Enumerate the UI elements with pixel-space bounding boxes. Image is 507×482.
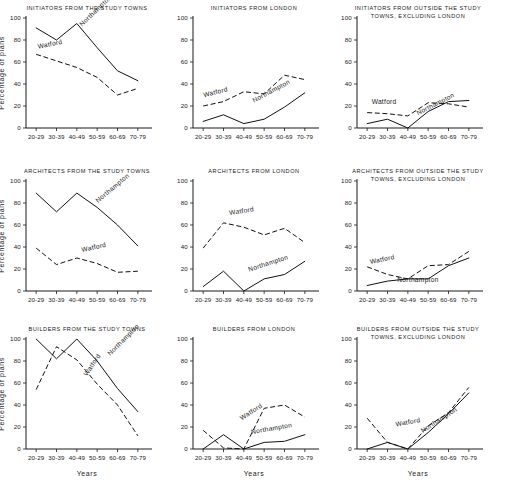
y-tick-label: 80	[14, 199, 22, 206]
x-tick-label: 70-79	[461, 296, 478, 303]
x-tick-label: 50-59	[420, 133, 437, 140]
svg-text:INITIATORS FROM THE STUDY TOWN: INITIATORS FROM THE STUDY TOWNS	[26, 5, 147, 11]
x-tick-label: 50-59	[256, 296, 273, 303]
x-tick-label: 30-39	[215, 296, 232, 303]
y-tick-label: 40	[181, 401, 189, 408]
panel-title-5: ARCHITECTS FROM OUTSIDE THE STUDYTOWNS, …	[352, 168, 483, 182]
x-tick-label: 40-49	[400, 133, 417, 140]
x-tick-label: 30-39	[48, 454, 65, 461]
x-tick-label: 20-29	[195, 133, 212, 140]
x-tick-label: 20-29	[28, 454, 45, 461]
chart-panel-8: BUILDERS FROM OUTSIDE THE STUDYTOWNS, EX…	[0, 0, 507, 482]
x-tick-label: 50-59	[420, 296, 437, 303]
y-tick-label: 20	[181, 265, 189, 272]
series-label-watford: Watford	[82, 352, 102, 377]
x-axis-label: Years	[244, 470, 265, 477]
svg-text:ARCHITECTS FROM LONDON: ARCHITECTS FROM LONDON	[208, 168, 299, 174]
series-line-watford	[203, 405, 305, 449]
y-tick-label: 100	[177, 177, 188, 184]
series-label-northampton: Northampton	[247, 253, 289, 273]
y-tick-label: 60	[345, 221, 353, 228]
chart-panel-0: INITIATORS FROM THE STUDY TOWNS020406080…	[0, 0, 507, 482]
panel-title-7: BUILDERS FROM LONDON	[213, 326, 295, 332]
y-tick-label: 20	[345, 265, 353, 272]
y-tick-label: 60	[181, 221, 189, 228]
series-line-northampton	[367, 101, 469, 129]
y-tick-label: 80	[14, 357, 22, 364]
x-tick-label: 40-49	[69, 296, 86, 303]
x-tick-label: 60-69	[276, 133, 293, 140]
series-line-northampton	[203, 261, 305, 291]
series-line-northampton	[367, 258, 469, 286]
x-tick-label: 70-79	[461, 454, 478, 461]
chart-panel-5: ARCHITECTS FROM OUTSIDE THE STUDYTOWNS, …	[0, 0, 507, 482]
svg-text:BUILDERS FROM THE STUDY TOWNS: BUILDERS FROM THE STUDY TOWNS	[28, 326, 145, 332]
y-tick-label: 0	[348, 287, 352, 294]
x-tick-label: 70-79	[130, 133, 147, 140]
y-tick-label: 80	[181, 357, 189, 364]
series-line-northampton	[203, 93, 305, 124]
x-tick-label: 60-69	[276, 454, 293, 461]
svg-text:BUILDERS FROM OUTSIDE THE STUD: BUILDERS FROM OUTSIDE THE STUDY	[357, 326, 480, 332]
x-tick-label: 30-39	[379, 296, 396, 303]
svg-text:TOWNS, EXCLUDING LONDON: TOWNS, EXCLUDING LONDON	[371, 13, 466, 19]
series-label-watford: Watford	[229, 205, 255, 216]
y-tick-label: 100	[10, 14, 21, 21]
y-tick-label: 100	[341, 14, 352, 21]
panel-title-6: BUILDERS FROM THE STUDY TOWNS	[28, 326, 145, 332]
svg-text:INITIATORS FROM LONDON: INITIATORS FROM LONDON	[211, 5, 297, 11]
y-tick-label: 40	[181, 80, 189, 87]
x-tick-label: 40-49	[69, 133, 86, 140]
y-tick-label: 60	[181, 379, 189, 386]
x-tick-label: 60-69	[109, 296, 126, 303]
y-tick-label: 60	[14, 58, 22, 65]
x-tick-label: 50-59	[256, 133, 273, 140]
y-tick-label: 80	[345, 357, 353, 364]
y-tick-label: 0	[348, 445, 352, 452]
svg-text:ARCHITECTS FROM OUTSIDE THE ST: ARCHITECTS FROM OUTSIDE THE STUDY	[352, 168, 483, 174]
y-tick-label: 100	[341, 335, 352, 342]
series-line-watford	[367, 103, 469, 116]
x-axis-label: Years	[408, 470, 429, 477]
series-label-northampton: Northampton	[78, 0, 113, 28]
series-line-northampton	[367, 393, 469, 449]
x-tick-label: 60-69	[440, 133, 457, 140]
x-tick-label: 70-79	[461, 133, 478, 140]
y-tick-label: 20	[14, 102, 22, 109]
panel-title-3: ARCHITECTS FROM THE STUDY TOWNS	[24, 168, 150, 174]
y-tick-label: 20	[345, 102, 353, 109]
x-tick-label: 70-79	[297, 454, 314, 461]
y-tick-label: 20	[181, 423, 189, 430]
chart-panel-7: BUILDERS FROM LONDON02040608010020-2930-…	[0, 0, 507, 482]
x-tick-label: 40-49	[236, 296, 253, 303]
y-tick-label: 40	[14, 401, 22, 408]
x-tick-label: 50-59	[89, 454, 106, 461]
y-tick-label: 20	[345, 423, 353, 430]
y-tick-label: 40	[345, 243, 353, 250]
y-tick-label: 60	[181, 58, 189, 65]
y-tick-label: 0	[184, 124, 188, 131]
chart-panel-6: BUILDERS FROM THE STUDY TOWNS02040608010…	[0, 0, 507, 482]
panel-title-1: INITIATORS FROM LONDON	[211, 5, 297, 11]
x-tick-label: 30-39	[215, 454, 232, 461]
series-label-northampton: Northampton	[415, 91, 456, 117]
series-line-watford	[36, 248, 138, 272]
series-label-northampton: Northampton	[397, 276, 438, 284]
chart-panel-4: ARCHITECTS FROM LONDON02040608010020-293…	[0, 0, 507, 482]
panel-title-8: BUILDERS FROM OUTSIDE THE STUDYTOWNS, EX…	[357, 326, 480, 340]
x-tick-label: 20-29	[359, 133, 376, 140]
x-axis-label: Years	[77, 470, 98, 477]
series-line-watford	[36, 54, 138, 95]
y-tick-label: 0	[184, 445, 188, 452]
series-label-watford: Watford	[372, 98, 397, 105]
x-tick-label: 60-69	[109, 454, 126, 461]
svg-text:INITIATORS FROM OUTSIDE THE ST: INITIATORS FROM OUTSIDE THE STUDY	[355, 5, 482, 11]
y-tick-label: 40	[345, 80, 353, 87]
y-tick-label: 0	[17, 124, 21, 131]
y-tick-label: 40	[345, 401, 353, 408]
panel-title-2: INITIATORS FROM OUTSIDE THE STUDYTOWNS, …	[355, 5, 482, 19]
svg-text:ARCHITECTS FROM THE STUDY TOWN: ARCHITECTS FROM THE STUDY TOWNS	[24, 168, 150, 174]
y-tick-label: 20	[14, 423, 22, 430]
x-tick-label: 40-49	[236, 133, 253, 140]
x-tick-label: 20-29	[195, 454, 212, 461]
